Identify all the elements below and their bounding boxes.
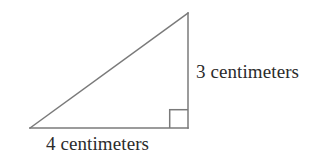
right-triangle-diagram: 3 centimeters 4 centimeters	[0, 0, 335, 157]
horizontal-leg-label: 4 centimeters	[46, 134, 149, 153]
hypotenuse-line	[30, 13, 188, 128]
vertical-leg-label: 3 centimeters	[196, 62, 299, 81]
triangle-outline	[30, 13, 188, 128]
right-angle-marker-icon	[169, 109, 188, 128]
